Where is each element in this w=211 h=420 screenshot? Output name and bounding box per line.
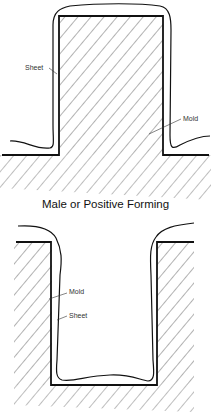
sheet-label: Sheet <box>69 312 87 319</box>
mold-label: Mold <box>183 115 198 122</box>
forming-diagram: Sheet Mold Male or Positive Forming Mold… <box>0 0 211 420</box>
mold-plug <box>60 16 163 155</box>
mold-bottom <box>14 385 194 412</box>
sheet-label: Sheet <box>25 64 43 71</box>
mold-left-wall <box>14 242 52 385</box>
mold-label: Mold <box>69 288 84 295</box>
mold-base <box>0 155 211 200</box>
male-forming-diagram: Sheet Mold Male or Positive Forming <box>0 4 211 210</box>
mold-right-wall <box>157 242 194 385</box>
female-forming-diagram: Mold Sheet <box>14 223 194 412</box>
caption-male-forming: Male or Positive Forming <box>42 198 169 210</box>
